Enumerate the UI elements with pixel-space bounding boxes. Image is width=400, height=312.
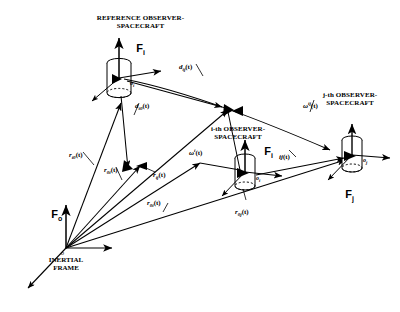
label-d-i0-arg: (t) <box>142 102 149 110</box>
node-label-reference: oi <box>124 73 134 95</box>
label-F-inertial: Fo <box>39 196 62 236</box>
label-F-reference-base: F <box>136 42 143 54</box>
node-label-j-sub: j <box>366 160 367 165</box>
node-label-origin: o <box>61 250 64 257</box>
label-d-i0: di0(t) <box>128 95 149 120</box>
label-r-0j-arg: (t) <box>242 208 249 216</box>
label-F-i-base: F <box>264 145 271 157</box>
label-d-ij-arg: (t) <box>185 63 192 71</box>
label-omega-ij: ωij(t) <box>296 93 318 119</box>
label-r-0j: r0j(t) <box>228 201 249 226</box>
node-label-i: oi <box>250 168 260 190</box>
left-node-markers <box>122 160 147 172</box>
label-r-i0-arg: (t) <box>76 151 83 159</box>
label-F-reference-sub: i <box>143 50 145 57</box>
figure-canvas: REFERENCE OBSERVER- SPACECRAFT i-th OBSE… <box>0 0 400 312</box>
caption-reference-spacecraft: REFERENCE OBSERVER- SPACECRAFT <box>58 15 223 31</box>
label-F-i: Fi <box>252 133 273 173</box>
label-r-0i: r0i(t) <box>140 192 161 217</box>
label-r-0i-arg: (t) <box>154 199 161 207</box>
label-d-ij: dij(t) <box>172 56 192 81</box>
node-label-j: oj <box>357 150 367 172</box>
label-r-0i-left: r0i(t) <box>97 159 118 184</box>
label-F-inertial-base: F <box>51 208 58 220</box>
label-r-ij-arg: (t) <box>159 171 166 179</box>
label-r-0i-left-arg: (t) <box>111 166 118 174</box>
node-label-i-sub: i <box>259 178 260 183</box>
caption-inertial-frame: INERTIAL FRAME <box>31 256 101 272</box>
label-F-inertial-sub: o <box>58 216 62 223</box>
label-ij-t: ij(t) <box>272 144 290 170</box>
label-omega-ij-arg: (t) <box>311 102 318 110</box>
label-r-ij: rij(t) <box>146 164 166 189</box>
node-label-reference-sub: i <box>133 83 134 88</box>
link-i-to-left <box>200 163 240 170</box>
label-omega-i: ωi(t) <box>182 140 202 166</box>
label-r-i0: ri0(t) <box>62 144 83 169</box>
label-omega-i-arg: (t) <box>195 149 202 157</box>
mid-node-markers <box>223 104 243 116</box>
ray-r-0i <box>66 163 200 248</box>
label-ij-t-arg: (t) <box>283 153 290 161</box>
label-F-j: Fj <box>333 176 354 216</box>
label-F-j-sub: j <box>352 196 354 203</box>
label-F-j-base: F <box>345 188 352 200</box>
label-F-reference: Fi <box>124 30 145 70</box>
vector-d-i0 <box>121 96 128 168</box>
